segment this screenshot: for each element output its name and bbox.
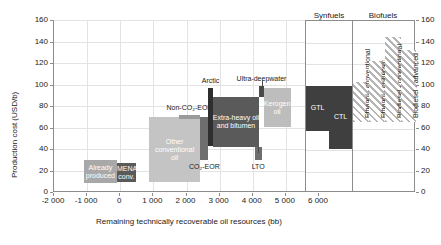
y-tick-label: 80 xyxy=(421,102,441,110)
x-tick-mark xyxy=(285,193,286,196)
x-tick-label: 2 000 xyxy=(169,197,203,205)
x-tick-mark xyxy=(219,193,220,196)
alternative-fuels-plot: GTLCTLEthanol - conventionalEthanol - ce… xyxy=(305,20,415,192)
bar-mena-conv-oil xyxy=(117,163,136,182)
group-header-biofuels: Biofuels xyxy=(352,11,414,20)
y-axis-title: Production cost (USD/b) xyxy=(11,92,19,178)
gridline-horizontal xyxy=(306,172,414,173)
y-tick-mark xyxy=(416,128,419,129)
x-tick-label: 4 000 xyxy=(235,197,269,205)
y-tick-label: 100 xyxy=(421,81,441,89)
x-tick-label: 3 000 xyxy=(202,197,236,205)
x-tick-mark xyxy=(53,193,54,196)
y-tick-label: 0 xyxy=(421,188,441,196)
x-axis-title: Remaining technically recoverable oil re… xyxy=(96,218,282,226)
group-header-synfuels: Synfuels xyxy=(306,11,352,20)
gridline-horizontal xyxy=(306,150,414,151)
y-tick-mark xyxy=(416,42,419,43)
y-tick-mark xyxy=(416,85,419,86)
bar-already-produced xyxy=(84,160,117,184)
bar-ctl xyxy=(329,86,352,149)
x-tick-mark xyxy=(252,193,253,196)
y-tick-mark xyxy=(416,63,419,64)
bar-extra-heavy-oil-and-bitumen xyxy=(213,97,260,146)
y-tick-label: 140 xyxy=(421,38,441,46)
x-tick-label: 1 000 xyxy=(135,197,169,205)
bar-kerogen-oil xyxy=(264,88,291,128)
x-tick-label: -2 000 xyxy=(36,197,70,205)
x-tick-label: 5 000 xyxy=(268,197,302,205)
bar-gtl xyxy=(306,86,329,131)
y-tick-label: 0 xyxy=(24,188,48,196)
production-cost-chart: Production cost (USD/b) 0204060801001201… xyxy=(0,0,441,245)
y-tick-label: 100 xyxy=(24,81,48,89)
x-tick-mark xyxy=(86,193,87,196)
y-tick-mark xyxy=(416,106,419,107)
x-tick-label: 0 xyxy=(102,197,136,205)
bar-non-co-eor xyxy=(179,115,201,119)
x-tick-mark xyxy=(152,193,153,196)
bar-co-eor xyxy=(200,117,208,160)
y-tick-label: 40 xyxy=(421,145,441,153)
y-tick-label: 40 xyxy=(24,145,48,153)
y-tick-label: 120 xyxy=(24,59,48,67)
y-tick-label: 120 xyxy=(421,59,441,67)
x-tick-mark xyxy=(186,193,187,196)
y-tick-mark xyxy=(416,20,419,21)
y-tick-mark xyxy=(416,192,419,193)
y-tick-label: 160 xyxy=(24,16,48,24)
bar-other-conventional-oil xyxy=(149,117,201,183)
y-tick-label: 160 xyxy=(421,16,441,24)
y-tick-mark xyxy=(416,149,419,150)
y-tick-label: 20 xyxy=(421,167,441,175)
y-tick-label: 140 xyxy=(24,38,48,46)
x-tick-mark xyxy=(119,193,120,196)
y-tick-label: 20 xyxy=(24,167,48,175)
x-tick-label: 6 000 xyxy=(301,197,335,205)
y-tick-label: 80 xyxy=(24,102,48,110)
y-tick-label: 60 xyxy=(421,124,441,132)
x-tick-label: -1 000 xyxy=(69,197,103,205)
callout-line xyxy=(258,147,259,153)
x-tick-mark xyxy=(318,193,319,196)
oil-resources-plot: Already producedMENA conv. oilOther conv… xyxy=(53,20,318,192)
y-tick-label: 60 xyxy=(24,124,48,132)
y-tick-mark xyxy=(416,171,419,172)
callout-line xyxy=(262,80,263,86)
